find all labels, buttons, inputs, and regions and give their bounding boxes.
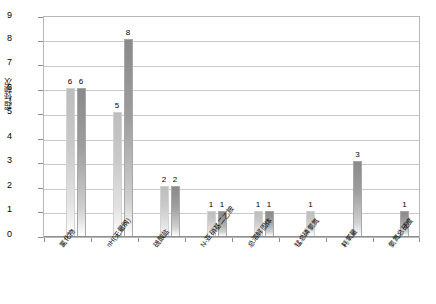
x-tick-mark bbox=[373, 238, 374, 242]
bar-wrapper: 6 bbox=[77, 15, 86, 236]
x-tick-mark bbox=[279, 238, 280, 242]
bar-group: 2 2 bbox=[146, 15, 193, 236]
bar-wrapper: 8 bbox=[124, 15, 133, 236]
bar-value-label: 5 bbox=[115, 102, 119, 110]
y-tick-label-2: 2 bbox=[0, 181, 12, 190]
bar-group: 1 bbox=[287, 15, 334, 236]
bar-value-label: 8 bbox=[126, 29, 130, 37]
bar-group: 1 bbox=[381, 15, 428, 236]
bar-value-label: 1 bbox=[256, 201, 260, 209]
bar-wrapper: 1 bbox=[207, 15, 216, 236]
y-tick-label-5: 5 bbox=[0, 107, 12, 116]
y-tick-label-6: 6 bbox=[0, 83, 12, 92]
bar-group: 3 bbox=[334, 15, 381, 236]
bar-group: 1 1 bbox=[240, 15, 287, 236]
bar-value-label: 3 bbox=[355, 151, 359, 159]
y-tick-label-8: 8 bbox=[0, 34, 12, 43]
x-tick-mark bbox=[185, 238, 186, 242]
bar-value-label: 2 bbox=[173, 176, 177, 184]
bar-value-label: 1 bbox=[308, 201, 312, 209]
bar-wrapper: 1 bbox=[306, 15, 315, 236]
bar-wrapper: 3 bbox=[353, 15, 362, 236]
bar-wrapper: 1 bbox=[218, 15, 227, 236]
y-tick-label-7: 7 bbox=[0, 58, 12, 67]
bar-value-label: 2 bbox=[162, 176, 166, 184]
bar-value-label: 1 bbox=[402, 201, 406, 209]
x-tick-mark bbox=[419, 238, 420, 242]
bar-value-label: 1 bbox=[267, 201, 271, 209]
plot-area: 6 6 5 8 bbox=[43, 16, 420, 238]
bar-wrapper: 1 bbox=[400, 15, 409, 236]
bar-value-label: 6 bbox=[79, 78, 83, 86]
bar-value-label: 6 bbox=[68, 78, 72, 86]
y-tick-label-3: 3 bbox=[0, 156, 12, 165]
bar-series1: 5 bbox=[113, 112, 122, 236]
bar-wrapper: 2 bbox=[171, 15, 180, 236]
bar-series2: 2 bbox=[171, 186, 180, 236]
bar-group: 6 6 bbox=[52, 15, 99, 236]
x-tick-mark bbox=[138, 238, 139, 242]
bar-group: 1 1 bbox=[193, 15, 240, 236]
bar-group: 5 8 bbox=[99, 15, 146, 236]
y-tick-label-9: 9 bbox=[0, 11, 12, 20]
bar-series1: 6 bbox=[66, 88, 75, 236]
x-tick-mark bbox=[91, 238, 92, 242]
x-tick-mark bbox=[232, 238, 233, 242]
bar-value-label: 1 bbox=[209, 201, 213, 209]
x-tick-mark bbox=[44, 238, 45, 242]
bar-series2: 8 bbox=[124, 39, 133, 236]
bar-series2: 6 bbox=[77, 88, 86, 236]
y-tick-label-0: 0 bbox=[0, 230, 12, 239]
bar-chart: 超标频次 0 1 2 3 4 5 6 7 8 9 6 bbox=[0, 0, 436, 304]
y-tick-label-1: 1 bbox=[0, 205, 12, 214]
bar-wrapper: 1 bbox=[254, 15, 263, 236]
bar-wrapper: 5 bbox=[113, 15, 122, 236]
y-tick-label-4: 4 bbox=[0, 132, 12, 141]
bar-series2: 3 bbox=[353, 161, 362, 236]
bar-value-label: 1 bbox=[220, 201, 224, 209]
bar-wrapper: 1 bbox=[265, 15, 274, 236]
x-tick-mark bbox=[326, 238, 327, 242]
bar-wrapper: 6 bbox=[66, 15, 75, 236]
bar-wrapper: 2 bbox=[160, 15, 169, 236]
x-axis-line bbox=[44, 236, 419, 237]
